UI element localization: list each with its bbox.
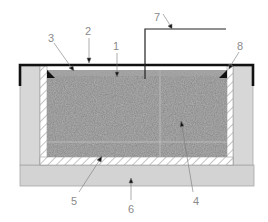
base-slab (20, 165, 254, 186)
outer-wall-right (233, 66, 253, 165)
label-7: 7 (154, 11, 160, 23)
hatch-wall-left (40, 66, 47, 165)
core-block (47, 70, 227, 157)
label-8: 8 (237, 40, 243, 52)
label-1: 1 (113, 40, 119, 52)
hatch-bottom (40, 157, 233, 165)
label-6: 6 (128, 203, 134, 215)
label-4: 4 (193, 195, 199, 207)
label-3: 3 (48, 32, 54, 44)
cross-section-diagram: 1 2 3 4 5 6 7 8 (0, 0, 268, 222)
label-5: 5 (71, 195, 77, 207)
outer-wall-left (20, 66, 40, 165)
label-2: 2 (85, 25, 91, 37)
hatch-wall-right (227, 66, 233, 165)
